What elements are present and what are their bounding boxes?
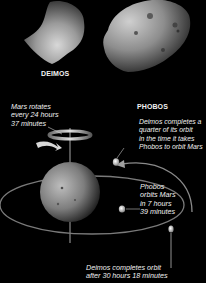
deimos-label: DEIMOS [41,70,69,77]
phobos-small-upper [113,158,119,166]
deimos-quarter-caption: Deimos completes a quarter of its orbit … [139,118,203,152]
phobos-label: PHOBOS [137,103,168,110]
mars-planet [40,162,100,222]
deimos-orbit-caption: Deimos completes orbit after 30 hours 18… [86,264,168,281]
rotation-arrow-icon [36,142,62,151]
deimos-image [24,1,84,64]
phobos-image [103,0,190,72]
phobos-orbit-caption: Phobos orbits Mars in 7 hours 39 minutes [140,183,176,217]
mars-rotation-caption: Mars rotates every 24 hours 37 minutes [11,103,59,128]
phobos-small-orbit [119,206,125,213]
deimos-small [168,226,173,233]
